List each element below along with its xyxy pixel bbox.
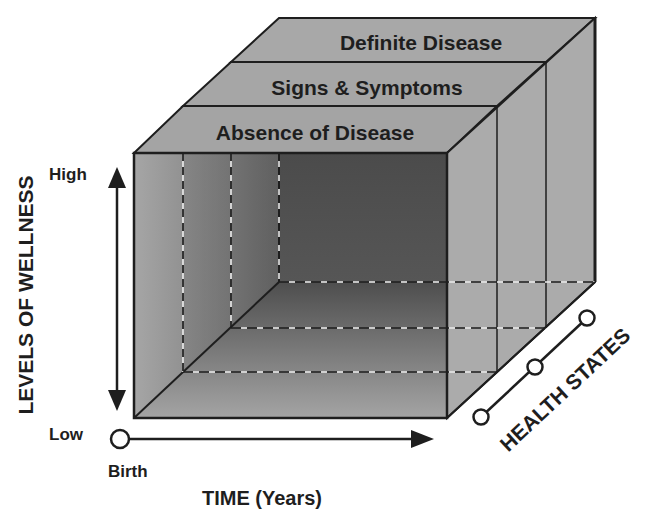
layer-label-signs-symptoms: Signs & Symptoms xyxy=(271,76,462,99)
y-axis-title: LEVELS OF WELLNESS xyxy=(14,175,37,414)
x-axis-title: TIME (Years) xyxy=(202,487,322,509)
y-axis-high-label: High xyxy=(49,165,87,184)
arrow-down-icon xyxy=(108,390,126,411)
x-axis-birth-label: Birth xyxy=(108,462,148,481)
arrow-right-icon xyxy=(411,430,434,448)
wellness-cube-diagram: Definite Disease Signs & Symptoms Absenc… xyxy=(0,0,652,521)
y-axis: High Low LEVELS OF WELLNESS xyxy=(14,165,126,444)
layer-label-definite-disease: Definite Disease xyxy=(340,31,502,54)
health-state-node-1-icon xyxy=(474,410,489,425)
x-axis: Birth TIME (Years) xyxy=(108,430,434,509)
birth-node-icon xyxy=(111,430,129,448)
arrow-up-icon xyxy=(108,167,126,188)
health-state-node-2-icon xyxy=(528,360,543,375)
y-axis-low-label: Low xyxy=(49,425,84,444)
layer-label-absence-of-disease: Absence of Disease xyxy=(216,121,414,144)
health-state-node-3-icon xyxy=(580,311,595,326)
